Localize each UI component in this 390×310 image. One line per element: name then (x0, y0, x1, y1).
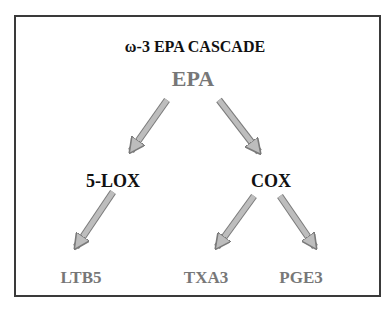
arrow-5lox-to-ltb5 (76, 192, 113, 247)
node-cox: COX (251, 171, 291, 192)
node-epa: EPA (172, 66, 214, 92)
arrow-cox-to-txa3 (217, 196, 254, 247)
arrow-epa-to-cox (219, 100, 259, 152)
node-txa3: TXA3 (184, 268, 228, 288)
arrow-cox-to-pge3 (280, 196, 315, 247)
node-pge3: PGE3 (279, 268, 322, 288)
node-5lox: 5-LOX (86, 171, 140, 192)
arrow-epa-to-5lox (131, 100, 167, 151)
node-ltb5: LTB5 (61, 268, 102, 288)
diagram-title: ω-3 EPA CASCADE (125, 38, 265, 56)
